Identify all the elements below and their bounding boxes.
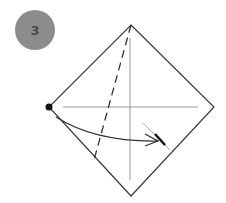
fold-arrow xyxy=(56,117,158,141)
paper-outline xyxy=(49,25,214,196)
reference-dot xyxy=(46,104,53,111)
origami-diagram xyxy=(0,0,226,203)
